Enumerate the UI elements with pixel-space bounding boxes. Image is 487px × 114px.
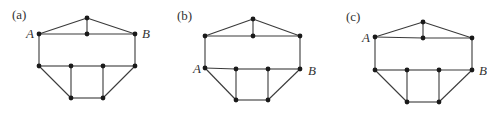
graph-vertex [133,32,138,37]
graph-vertex [437,68,442,73]
graph-vertex [298,67,303,72]
graph-vertex [298,34,303,39]
graph-vertex [470,68,475,73]
graph-panel-b: (b)AB [177,8,316,102]
graph-vertex [85,32,90,37]
graph-vertex [133,64,138,69]
graph-vertex [101,96,106,101]
graph-vertex [37,32,42,37]
panel-label: (b) [177,8,192,23]
graph-edge [205,68,236,69]
panel-label: (a) [12,7,26,22]
graph-edge [375,37,423,38]
graph-vertex [266,67,271,72]
vertex-label-b: B [308,63,316,78]
graph-vertex [373,68,378,73]
vertex-label-a: A [192,61,201,76]
graph-vertex [421,36,426,41]
graph-vertex [101,64,106,69]
graph-edge [375,22,423,37]
graph-vertex [69,64,74,69]
graph-figure: (a)AB(b)AB(c)AB [0,0,487,114]
graph-vertex [203,34,208,39]
graph-panel-c: (c)AB [346,9,487,104]
vertex-label-b: B [479,63,487,78]
graph-edge [375,70,407,102]
graph-vertex [405,68,410,73]
graph-vertex [203,66,208,71]
graph-edge [39,18,87,34]
graph-vertex [266,98,271,103]
graph-edge [253,19,300,36]
panel-label: (c) [346,9,360,24]
graph-vertex [470,36,475,41]
graph-edge [103,66,135,98]
graph-vertex [234,67,239,72]
graph-vertex [69,96,74,101]
graph-vertex [437,100,442,105]
graph-edge [423,22,472,38]
graph-vertex [405,100,410,105]
graph-edge [87,18,135,34]
graph-vertex [251,34,256,39]
vertex-label-a: A [361,30,370,45]
vertex-label-a: A [25,26,34,41]
graph-edge [268,69,300,100]
graph-vertex [421,20,426,25]
graph-vertex [85,16,90,21]
vertex-label-b: B [142,26,150,41]
graph-vertex [234,98,239,103]
graph-edge [39,66,71,98]
graph-vertex [251,17,256,22]
graph-vertex [373,35,378,40]
graph-panel-a: (a)AB [12,7,150,100]
graph-edge [205,19,253,36]
graph-edge [439,70,472,102]
graph-vertex [37,64,42,69]
graph-edge [205,68,236,100]
